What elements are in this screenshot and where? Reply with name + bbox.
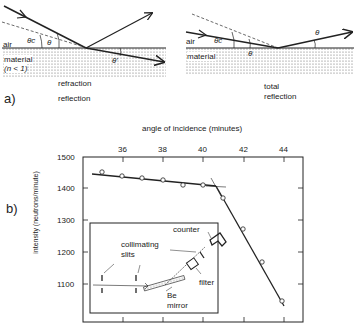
y-tick-label: 1300: [57, 216, 75, 225]
intersection-mark: [211, 178, 221, 196]
left-refracted-angle-label: θ': [112, 56, 118, 65]
x-tick-label: 40: [198, 145, 207, 154]
panel-a-label: a): [4, 91, 16, 106]
y-tick-label: 1100: [57, 280, 74, 289]
right-critical-angle-label: θc: [214, 36, 222, 45]
apparatus-inset: [90, 223, 226, 313]
x-tick-label: 42: [239, 145, 248, 154]
x-tick-label: 38: [158, 145, 167, 154]
left-incident-angle-label: θ: [47, 38, 51, 47]
x-ticks-bottom: [123, 317, 284, 322]
right-reflected-angle-label: θ: [315, 28, 319, 37]
critical-angle-line: [192, 14, 278, 48]
refraction-caption: refraction: [58, 79, 91, 88]
x-axis-title: angle of incidence (minutes): [142, 124, 242, 133]
y-ticks-right: [298, 188, 303, 284]
left-critical-angle-label: θc: [27, 36, 35, 45]
counter-label: counter: [173, 225, 200, 234]
y-axis-title: intensity (neutrons/minute): [31, 158, 40, 268]
left-index-note: (n < 1): [4, 64, 27, 73]
filter-label: filter: [199, 278, 214, 287]
incident-beam: [4, 6, 86, 48]
slits-label: slits: [121, 250, 135, 259]
be-label: Be: [167, 291, 177, 300]
chart: [83, 157, 303, 322]
collimating-label: collimating: [121, 240, 159, 249]
figure-graphics: [0, 0, 354, 336]
right-air-label: air: [186, 37, 195, 46]
y-ticks-left: [83, 188, 88, 284]
reflection-caption: reflection: [58, 94, 90, 103]
right-material-label: material: [187, 52, 215, 61]
total-caption: total: [264, 82, 279, 91]
y-tick-label: 1500: [57, 153, 75, 162]
panel-b-label: b): [6, 201, 18, 216]
right-incident-angle-label: θ: [248, 49, 252, 58]
total-reflection-caption: reflection: [264, 92, 296, 101]
fit-line-below-critical: [92, 174, 216, 186]
y-tick-label: 1400: [57, 184, 75, 193]
left-material-label: material: [4, 55, 32, 64]
y-tick-label: 1200: [57, 248, 75, 257]
incident-beam: [186, 32, 278, 48]
x-tick-label: 44: [279, 145, 288, 154]
fit-line-above-critical: [216, 186, 284, 306]
reflected-beam: [86, 13, 152, 48]
mirror-label: mirror: [167, 301, 188, 310]
left-air-label: air: [3, 40, 12, 49]
x-ticks-top: [123, 157, 284, 162]
total-reflection-diagram: [186, 14, 354, 74]
x-tick-label: 36: [118, 145, 127, 154]
